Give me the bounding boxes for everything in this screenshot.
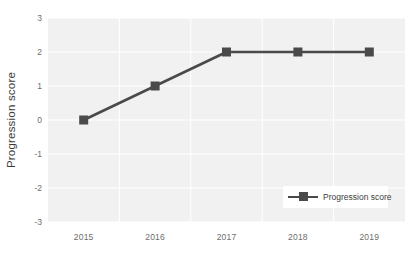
chart-figure: Progression score 3210-1-2-3 20152016201… xyxy=(0,0,420,254)
legend-square-marker-icon xyxy=(299,192,308,201)
y-axis-tick-label: 1 xyxy=(26,81,42,91)
data-point-marker xyxy=(79,116,88,125)
x-axis-tick-label: 2016 xyxy=(145,232,165,242)
x-axis-tick-label: 2015 xyxy=(74,232,94,242)
data-point-marker xyxy=(293,48,302,57)
y-axis-tick-label: 0 xyxy=(26,115,42,125)
data-point-marker xyxy=(365,48,374,57)
y-axis-tick-label: -2 xyxy=(26,183,42,193)
y-axis-title: Progression score xyxy=(0,18,22,222)
legend-label: Progression score xyxy=(323,192,392,202)
x-axis-tick-label: 2017 xyxy=(217,232,237,242)
y-axis-tick-label: 3 xyxy=(26,13,42,23)
x-axis-tick-label: 2019 xyxy=(359,232,379,242)
data-point-marker xyxy=(151,82,160,91)
y-axis-tick-label: -3 xyxy=(26,217,42,227)
data-point-marker xyxy=(222,48,231,57)
y-axis-tick-label: -1 xyxy=(26,149,42,159)
legend-swatch-progression-score xyxy=(288,191,318,203)
legend: Progression score xyxy=(283,186,388,208)
y-axis-title-label: Progression score xyxy=(5,72,17,168)
x-axis-tick-label: 2018 xyxy=(288,232,308,242)
y-axis-tick-label: 2 xyxy=(26,47,42,57)
